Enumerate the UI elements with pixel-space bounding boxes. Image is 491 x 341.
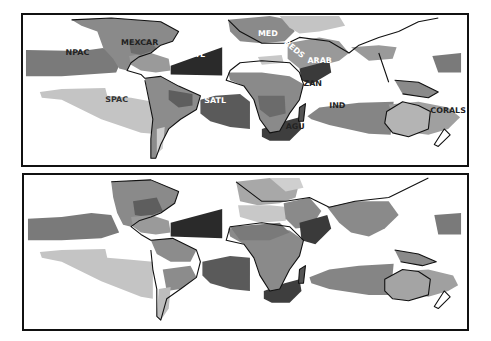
label-corals: CORALS bbox=[430, 106, 466, 115]
label-spac: SPAC bbox=[105, 95, 128, 104]
map-panel-bottom bbox=[22, 173, 469, 331]
land-patagonia bbox=[157, 127, 165, 154]
label-med: MED bbox=[258, 29, 278, 38]
land-south-america-north bbox=[151, 238, 197, 261]
land-asia bbox=[351, 45, 397, 61]
world-map-bottom bbox=[24, 175, 467, 329]
region-spac bbox=[40, 249, 153, 299]
region-ind bbox=[309, 264, 393, 295]
region-npac bbox=[28, 213, 119, 240]
land-sahara bbox=[258, 55, 284, 65]
label-mexcar: MEXCAR bbox=[121, 38, 158, 47]
region-satl bbox=[202, 256, 250, 291]
label-zan: ZAN bbox=[303, 79, 322, 88]
land-south-america-south bbox=[157, 287, 171, 320]
region-npac-east bbox=[432, 53, 461, 72]
land-south-america-mid bbox=[163, 266, 197, 291]
label-arab: ARAB bbox=[307, 56, 331, 65]
label-satl: SATL bbox=[204, 96, 226, 105]
world-map-top: NPAC MEXCAR NATL SPAC SATL MED REDS ARAB… bbox=[23, 15, 467, 165]
label-natl: NATL bbox=[183, 50, 206, 59]
region-ind bbox=[307, 102, 393, 135]
land-sahara bbox=[238, 205, 290, 223]
land-asia bbox=[327, 201, 398, 236]
region-spac bbox=[40, 88, 153, 134]
label-agu: AGU bbox=[286, 122, 305, 131]
region-npac-east bbox=[434, 213, 461, 234]
label-ind: IND bbox=[329, 102, 346, 111]
label-npac: NPAC bbox=[66, 48, 90, 57]
region-natl bbox=[171, 209, 223, 238]
land-south-america bbox=[145, 76, 200, 158]
region-mexcar bbox=[129, 53, 171, 72]
map-panel-top: NPAC MEXCAR NATL SPAC SATL MED REDS ARAB… bbox=[21, 13, 469, 167]
